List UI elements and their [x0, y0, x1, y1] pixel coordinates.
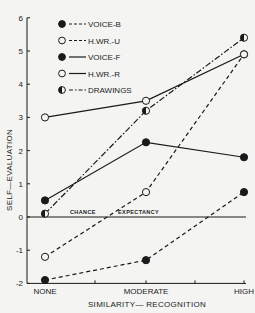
series-line	[45, 38, 244, 214]
legend-item: H.WR.-U	[59, 37, 121, 46]
legend-label: DRAWINGS	[88, 86, 132, 95]
data-point	[41, 253, 48, 260]
data-point	[41, 114, 48, 121]
data-point	[142, 97, 149, 104]
legend-label: H.WR.-U	[88, 37, 120, 46]
legend: VOICE-BH.WR.-UVOICE-FH.WR.-RDRAWINGS	[59, 20, 132, 95]
series-line	[45, 192, 244, 280]
x-axis-title: SIMILARITY— RECOGNITION	[88, 300, 206, 309]
data-point	[41, 210, 48, 217]
reference-label-chance: CHANCE	[70, 209, 96, 215]
legend-label: VOICE-B	[88, 20, 121, 29]
y-axis-title: SELF—EVALUATION	[5, 129, 14, 211]
y-tick-label: 2	[19, 147, 24, 156]
legend-item: VOICE-B	[59, 20, 121, 29]
data-point	[240, 51, 247, 58]
y-tick-label: 1	[19, 180, 24, 189]
series-group	[41, 34, 247, 284]
data-point	[240, 189, 247, 196]
data-point	[142, 257, 149, 264]
series-line	[45, 54, 244, 257]
reference-label-expectancy: EXPECTANCY	[118, 209, 159, 215]
data-point	[240, 154, 247, 161]
data-point	[41, 197, 48, 204]
legend-label: H.WR.-R	[88, 70, 120, 79]
data-point	[142, 139, 149, 146]
y-tick-label: 6	[19, 14, 24, 23]
series-h-wr-u	[41, 51, 247, 261]
line-chart: -2-10123456NONEMODERATEHIGH CHANCEEXPECT…	[0, 0, 255, 313]
legend-marker	[59, 21, 66, 28]
legend-label: VOICE-F	[88, 53, 121, 62]
y-tick-label: 4	[19, 80, 24, 89]
y-tick-label: 3	[19, 113, 24, 122]
x-tick-label: MODERATE	[124, 287, 169, 296]
legend-marker	[59, 70, 66, 77]
legend-marker	[59, 37, 66, 44]
y-tick-label: -2	[16, 279, 24, 288]
data-point	[41, 276, 48, 283]
legend-marker	[59, 54, 66, 61]
x-tick-label: HIGH	[234, 287, 254, 296]
legend-item: DRAWINGS	[59, 86, 132, 95]
y-tick-label: 5	[19, 47, 24, 56]
data-point	[142, 189, 149, 196]
data-point	[142, 107, 149, 114]
x-tick-label: NONE	[33, 287, 56, 296]
data-point	[240, 34, 247, 41]
series-voice-b	[41, 189, 247, 284]
legend-item: H.WR.-R	[59, 70, 121, 79]
y-tick-label: 0	[19, 213, 24, 222]
legend-item: VOICE-F	[59, 53, 121, 62]
y-tick-label: -1	[16, 246, 24, 255]
legend-marker	[59, 87, 66, 94]
